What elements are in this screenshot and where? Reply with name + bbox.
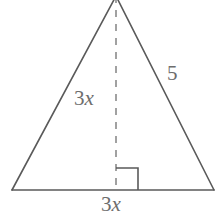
triangle-left-leg [12,0,116,190]
side-length-label: 5 [167,63,178,84]
triangle-diagram-svg [0,0,224,223]
base-length-label: 3x [101,194,121,215]
geometry-figure: 3x 3x 5 [0,0,224,223]
base-coefficient: 3 [101,192,112,216]
triangle-right-leg [116,0,214,190]
altitude-coefficient: 3 [74,86,85,110]
altitude-length-label: 3x [74,88,94,109]
base-variable: x [112,192,121,216]
side-length-value: 5 [167,61,178,85]
altitude-variable: x [85,86,94,110]
right-angle-marker-icon [116,168,138,190]
